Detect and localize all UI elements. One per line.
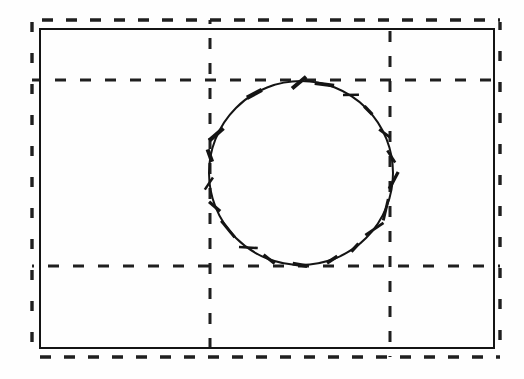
circle-tick-mark (293, 264, 307, 267)
figure-background (0, 0, 524, 379)
circle-tick-mark (239, 247, 258, 248)
circle-tick-mark (315, 83, 334, 86)
figure-container (0, 0, 524, 379)
figure-canvas (0, 0, 524, 379)
